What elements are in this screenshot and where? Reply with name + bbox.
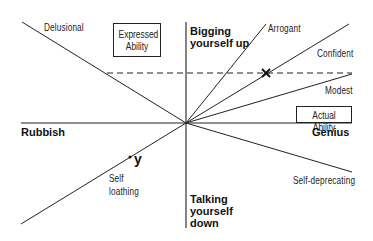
- bigging-line2: yourself up: [190, 37, 249, 49]
- expressed-ability-line2: Ability: [119, 40, 156, 52]
- rubbish-label: Rubbish: [21, 126, 65, 138]
- expressed-ability-line1: Expressed: [119, 28, 156, 40]
- talking-yourself-down-label: Talking yourself down: [190, 193, 233, 229]
- self-loathing-line2: loathing: [109, 185, 139, 198]
- actual-ability-box: Actual Ability: [296, 106, 352, 123]
- ability-diagram: Expressed Ability Actual Ability Delusio…: [0, 0, 373, 241]
- arrogant-label: Arrogant: [268, 22, 301, 34]
- self-loathing-label: Self loathing: [109, 172, 139, 198]
- expressed-ability-box: Expressed Ability: [113, 23, 161, 57]
- y-marker-dot: [129, 156, 132, 159]
- modest-label: Modest: [325, 84, 353, 96]
- self-loathing-line1: Self: [109, 172, 139, 185]
- talking-line2: yourself: [190, 205, 233, 217]
- talking-line1: Talking: [190, 193, 233, 205]
- y-marker-label: y: [134, 153, 142, 165]
- bigging-yourself-up-label: Bigging yourself up: [190, 25, 249, 49]
- self-deprecating-label: Self-deprecating: [293, 174, 355, 186]
- genius-label: Genius: [312, 126, 349, 138]
- bigging-line1: Bigging: [190, 25, 249, 37]
- confident-label: Confident: [317, 47, 353, 59]
- talking-line3: down: [190, 217, 233, 229]
- delusional-label: Delusional: [44, 21, 84, 33]
- self-loathing-line: [21, 123, 186, 224]
